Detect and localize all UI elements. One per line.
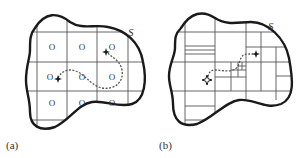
region-s-label: S bbox=[128, 26, 134, 38]
svg-text:O: O bbox=[79, 42, 86, 52]
panel-a-caption: (a) bbox=[6, 139, 18, 151]
panel-b-drawing bbox=[153, 0, 306, 158]
region-s-label: S bbox=[268, 20, 274, 32]
panel-b-caption: (b) bbox=[159, 139, 172, 151]
svg-text:O: O bbox=[109, 42, 116, 52]
svg-text:O: O bbox=[49, 98, 56, 108]
svg-text:O: O bbox=[47, 72, 54, 82]
dashed-path bbox=[58, 52, 122, 88]
svg-text:O: O bbox=[109, 72, 116, 82]
start-marker-icon bbox=[202, 75, 212, 85]
svg-text:O: O bbox=[49, 42, 56, 52]
goal-marker-icon bbox=[252, 50, 260, 58]
svg-text:O: O bbox=[79, 98, 86, 108]
start-marker-icon bbox=[54, 75, 62, 83]
panel-a: O O O O O O O O O S (a) bbox=[0, 0, 153, 158]
svg-text:O: O bbox=[109, 98, 116, 108]
panel-b: S (b) bbox=[153, 0, 306, 158]
uniform-grid bbox=[0, 0, 153, 158]
panel-a-drawing: O O O O O O O O O bbox=[0, 0, 153, 158]
